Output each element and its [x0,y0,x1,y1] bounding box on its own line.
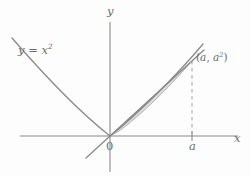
curve-equation-exponent: 2 [48,42,53,51]
x-axis-label: x [234,133,241,145]
figure-canvas [0,0,251,176]
curve-equation-label: y = x2 [18,45,53,57]
curve-equation-eq: = [25,43,42,57]
origin-label: 0 [106,141,113,153]
y-axis-label: y [107,6,114,18]
x-tick-a-label: a [189,141,196,153]
point-paren-close: ) [223,51,227,63]
point-coordinate-label: (a, a2) [196,52,228,63]
secant-line [86,50,204,158]
math-figure: y = x2 (a, a2) y x 0 a [0,0,251,176]
